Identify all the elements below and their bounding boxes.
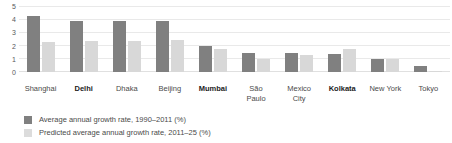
legend-swatch-icon [24, 129, 32, 137]
bar-predicted [128, 41, 141, 72]
bar-predicted [85, 41, 98, 72]
bar-actual [328, 54, 341, 72]
growth-rate-bar-chart: 5 4 3 2 1 0 ShanghaiDelhiDhakaBeijingMum… [0, 0, 452, 143]
y-tick-label: 4 [12, 16, 16, 23]
chart-legend: Average annual growth rate, 1990–2011 (%… [24, 113, 211, 139]
bar-predicted [300, 55, 313, 72]
y-tick-label: 3 [12, 29, 16, 36]
bar-actual [70, 21, 83, 72]
x-axis-label-shanghai: Shanghai [19, 84, 62, 103]
x-axis-label-são-paulo: São Paulo [234, 84, 277, 103]
bar-group [105, 6, 148, 72]
x-axis-label-mexico-city: Mexico City [278, 84, 321, 103]
x-axis-label-mumbai: Mumbai [191, 84, 234, 103]
plot-area: 5 4 3 2 1 0 [0, 6, 452, 82]
legend-item-actual: Average annual growth rate, 1990–2011 (%… [24, 113, 211, 126]
bar-predicted [214, 49, 227, 72]
legend-swatch-icon [24, 116, 32, 124]
bar-group [19, 6, 62, 72]
bar-group [364, 6, 407, 72]
bar-group [321, 6, 364, 72]
bar-group [407, 6, 450, 72]
y-tick-label: 1 [12, 55, 16, 62]
bar-predicted [257, 59, 270, 72]
bar-group [234, 6, 277, 72]
x-axis-label-kolkata: Kolkata [321, 84, 364, 103]
y-tick-label: 2 [12, 42, 16, 49]
bar-actual [414, 66, 427, 73]
x-axis-label-new-york: New York [364, 84, 407, 103]
x-axis-label-dhaka: Dhaka [105, 84, 148, 103]
bar-group [62, 6, 105, 72]
bar-predicted [343, 49, 356, 72]
bar-actual [156, 21, 169, 72]
bar-group [278, 6, 321, 72]
y-axis: 5 4 3 2 1 0 [0, 6, 18, 72]
bar-predicted [386, 59, 399, 72]
y-tick-label: 5 [12, 3, 16, 10]
x-axis-label-delhi: Delhi [62, 84, 105, 103]
bar-actual [199, 46, 212, 72]
legend-item-label: Average annual growth rate, 1990–2011 (%… [39, 115, 186, 124]
bar-group [148, 6, 191, 72]
bar-actual [371, 59, 384, 72]
legend-item-predicted: Predicted average annual growth rate, 20… [24, 126, 211, 139]
bar-predicted [42, 42, 55, 72]
y-tick-label: 0 [12, 69, 16, 76]
x-axis-label-tokyo: Tokyo [407, 84, 450, 103]
x-axis-category-labels: ShanghaiDelhiDhakaBeijingMumbaiSão Paulo… [19, 84, 450, 103]
x-axis-label-beijing: Beijing [148, 84, 191, 103]
bar-group [191, 6, 234, 72]
legend-item-label: Predicted average annual growth rate, 20… [39, 128, 211, 137]
bar-actual [242, 53, 255, 73]
bar-series-container [19, 6, 450, 72]
bar-actual [27, 16, 40, 72]
bar-predicted [171, 40, 184, 73]
bar-predicted [429, 71, 442, 72]
bar-actual [113, 21, 126, 72]
bar-actual [285, 53, 298, 73]
